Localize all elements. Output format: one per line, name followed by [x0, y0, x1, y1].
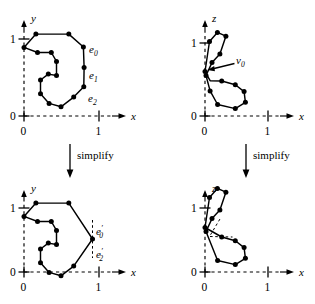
x-axis-label-top-left: x [130, 110, 136, 122]
x-tick-label-0-bottom-right: 0 [202, 281, 208, 293]
origin-label-top-left: 0 [10, 110, 16, 122]
x-axis-arrowhead-top-left [119, 113, 127, 119]
y-tick-label-1-top-left: 1 [10, 33, 16, 45]
z-axis-label-bottom-right: z [211, 182, 217, 194]
x-tick-label-0-bottom-left: 0 [21, 281, 27, 293]
point-label-v0-top-right: v0 [236, 54, 245, 69]
x-tick-label-1-bottom-left: 1 [96, 281, 102, 293]
y-tick-label-1-bottom-left: 1 [10, 202, 16, 214]
panel-bottom-right: z x 0 1 0 1 [191, 182, 304, 293]
figure-canvas: y x 0 1 0 1 e0 e1 e2 [0, 0, 315, 304]
polygon-bottom-right-vertices [203, 186, 248, 267]
v0-pointer-line [212, 64, 235, 70]
x-axis-label-bottom-left: x [130, 266, 136, 278]
polygon-bottom-right [205, 188, 245, 264]
z-tick-label-1-bottom-right: 1 [191, 202, 197, 214]
point-label-v0-sub: 0 [241, 60, 245, 69]
edge-label-e2-prime-sub: 2 [99, 254, 103, 263]
svg-text:e′2: e′2 [96, 247, 103, 262]
svg-text:e2: e2 [88, 92, 97, 107]
edge-label-e0-sub: 0 [94, 49, 98, 58]
svg-text:e1: e1 [89, 69, 98, 84]
simplify-arrow-right-head [243, 170, 250, 179]
polygon-bottom-left [24, 203, 93, 276]
x-axis-arrowhead-bottom-left [119, 269, 127, 275]
simplify-label-right: simplify [253, 149, 290, 161]
x-axis-label-top-right: x [298, 110, 304, 122]
simplify-arrow-right-group: simplify [243, 144, 291, 178]
polygon-top-left-vertices [22, 32, 87, 110]
x-axis-arrowhead-bottom-right [287, 269, 295, 275]
x-tick-label-1-top-right: 1 [265, 125, 271, 137]
svg-text:v0: v0 [236, 54, 245, 69]
x-tick-label-0-top-right: 0 [202, 125, 208, 137]
x-tick-label-1-bottom-right: 1 [265, 281, 271, 293]
figure-polygon-simplification: y x 0 1 0 1 e0 e1 e2 [0, 0, 315, 304]
svg-text:e′0: e′0 [96, 224, 103, 239]
edge-label-e0-prime-sub: 0 [99, 231, 103, 240]
edge-label-e0-prime-bottom-left: e′0 [96, 224, 103, 239]
panel-bottom-left: y x 0 1 0 1 e′0 e′2 [10, 182, 136, 293]
y-axis-label-top-left: y [30, 12, 36, 24]
x-axis-label-bottom-right: x [298, 266, 304, 278]
y-axis-label-bottom-left: y [30, 182, 36, 194]
panel-top-left: y x 0 1 0 1 e0 e1 e2 [10, 12, 136, 137]
origin-label-bottom-left: 0 [10, 266, 16, 278]
x-tick-label-1-top-left: 1 [96, 125, 102, 137]
edge-label-e2-top-left: e2 [88, 92, 97, 107]
simplify-arrow-left-group: simplify [67, 144, 115, 178]
z-axis-arrowhead-bottom-right [202, 190, 208, 197]
panel-top-right: v0 z x 0 1 0 1 [191, 12, 304, 137]
svg-text:e0: e0 [89, 43, 98, 58]
edge-label-e0-top-left: e0 [89, 43, 98, 58]
simplify-label-left: simplify [77, 149, 114, 161]
z-tick-label-1-top-right: 1 [191, 37, 197, 49]
polygon-bottom-left-vertices [22, 201, 96, 279]
edge-label-e1-sub: 1 [94, 75, 98, 84]
origin-label-top-right: 0 [191, 110, 197, 122]
edge-label-e1-top-left: e1 [89, 69, 98, 84]
z-axis-label-top-right: z [211, 12, 217, 24]
y-axis-arrowhead-top-left [21, 20, 27, 27]
helper-dashed-lines-bottom-right [210, 219, 233, 237]
simplify-arrow-left-head [67, 170, 74, 179]
z-axis-arrowhead-top-right [202, 20, 208, 27]
x-axis-arrowhead-top-right [287, 113, 295, 119]
x-tick-label-0-top-left: 0 [21, 125, 27, 137]
y-axis-arrowhead-bottom-left [21, 190, 27, 197]
polygon-top-right-vertices [203, 30, 248, 111]
origin-label-bottom-right: 0 [191, 266, 197, 278]
edge-label-e2-sub: 2 [93, 98, 97, 107]
edge-label-e2-prime-bottom-left: e′2 [96, 247, 103, 262]
